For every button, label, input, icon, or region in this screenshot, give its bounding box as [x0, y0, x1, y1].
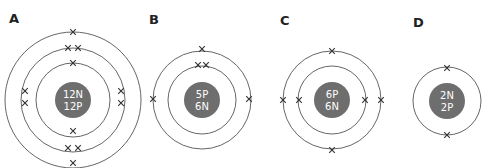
electron-cross-icon — [118, 100, 124, 106]
atom-a: 12N12P — [5, 29, 141, 168]
nucleus-line-1: 5P — [196, 89, 208, 100]
electron-cross-icon — [75, 145, 81, 151]
electron-cross-icon — [296, 97, 302, 103]
electron-cross-icon — [70, 128, 76, 134]
nucleus — [184, 82, 220, 118]
nucleus — [55, 82, 91, 118]
electron-cross-icon — [22, 88, 28, 94]
atom-c: 6P6N — [280, 48, 384, 153]
nucleus-line-2: 6N — [325, 101, 339, 112]
electron-cross-icon — [65, 145, 71, 151]
nucleus-line-1: 12N — [63, 89, 83, 100]
electron-cross-icon — [195, 62, 201, 68]
atom-b: 5P6N — [150, 46, 252, 149]
nucleus-line-1: 2N — [440, 90, 454, 101]
electron-cross-icon — [329, 147, 335, 153]
nucleus-line-2: 12P — [64, 101, 83, 112]
atoms-diagram: 12N12P5P6N6P6N2N2P — [0, 0, 489, 168]
nucleus-line-2: 6N — [195, 101, 209, 112]
electron-cross-icon — [203, 62, 209, 68]
electron-cross-icon — [362, 97, 368, 103]
nucleus-line-1: 6P — [326, 89, 338, 100]
atom-d: 2N2P — [413, 65, 481, 138]
nucleus-line-2: 2P — [441, 102, 453, 113]
electron-cross-icon — [118, 88, 124, 94]
electron-cross-icon — [22, 100, 28, 106]
nucleus — [429, 83, 465, 119]
nucleus — [314, 82, 350, 118]
electron-cross-icon — [70, 160, 76, 166]
electron-cross-icon — [444, 65, 450, 71]
